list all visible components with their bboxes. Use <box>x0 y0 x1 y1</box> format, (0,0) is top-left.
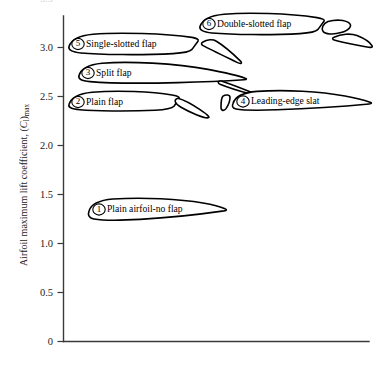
tick-label-3-0: 3.0 <box>40 42 53 53</box>
y-axis-title-prefix: Airfoil maximum lift coefficient, ( <box>18 128 30 267</box>
marker-1-label: Plain airfoil-no flap <box>107 203 183 214</box>
marker-4-number: 4 <box>241 96 246 106</box>
data-point-plain-flap[interactable]: 2 Plain flap <box>69 91 209 118</box>
data-point-split-flap[interactable]: 3 Split flap <box>79 62 252 93</box>
airfoil-6-aft-flap <box>333 34 373 47</box>
y-axis-title: Airfoil maximum lift coefficient, (Cl)ma… <box>18 103 31 266</box>
data-point-single-slotted-flap[interactable]: 5 Single-slotted flap <box>69 33 242 63</box>
marker-6-number: 6 <box>207 18 212 28</box>
tick-label-0: 0 <box>48 336 53 347</box>
tick-label-1-0: 1.0 <box>40 238 53 249</box>
airfoil-6-vane-flap <box>322 20 350 34</box>
data-point-double-slotted-flap[interactable]: 6 Double-slotted flap <box>200 13 372 47</box>
chart-figure: 0 0.5 1.0 1.5 2.0 2.5 3.0 3.5 Airfoil ma… <box>0 0 376 368</box>
tick-label-3-5: 3.5 <box>40 0 53 4</box>
marker-3-label: Split flap <box>96 67 132 78</box>
airfoil-5-flap <box>202 40 242 64</box>
data-point-plain-airfoil[interactable]: 1 Plain airfoil-no flap <box>89 198 227 220</box>
y-axis-title-group: Airfoil maximum lift coefficient, (Cl)ma… <box>18 103 31 266</box>
marker-5-label: Single-slotted flap <box>86 38 157 49</box>
marker-4-label: Leading-edge slat <box>251 95 320 106</box>
tick-label-0-5: 0.5 <box>40 287 53 298</box>
airfoil-3-split-plate <box>218 81 252 94</box>
marker-5-number: 5 <box>76 38 81 48</box>
chart-svg: 0 0.5 1.0 1.5 2.0 2.5 3.0 3.5 Airfoil ma… <box>0 0 376 368</box>
airfoil-2-flap <box>175 98 209 118</box>
marker-2-number: 2 <box>76 96 81 106</box>
marker-1-number: 1 <box>97 204 102 214</box>
tick-label-1-5: 1.5 <box>40 189 53 200</box>
y-axis-title-sub-max: max <box>23 103 31 116</box>
y-axis-ticks: 0 0.5 1.0 1.5 2.0 2.5 3.0 3.5 <box>40 0 64 347</box>
tick-label-2-0: 2.0 <box>40 140 53 151</box>
marker-3-number: 3 <box>86 67 91 77</box>
marker-6-label: Double-slotted flap <box>217 18 292 29</box>
airfoil-4-slat <box>221 95 230 110</box>
data-point-leading-edge-slat[interactable]: 4 Leading-edge slat <box>221 91 371 111</box>
tick-label-2-5: 2.5 <box>40 91 53 102</box>
marker-2-label: Plain flap <box>86 96 123 107</box>
